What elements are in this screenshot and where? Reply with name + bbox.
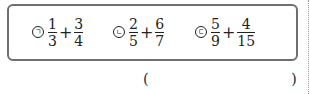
denominator: 15 — [237, 33, 255, 48]
option-c: ㄷ 5 9 + 4 15 — [195, 15, 256, 49]
option-a: ㄱ 1 3 + 3 4 — [32, 15, 84, 49]
fraction: 1 3 — [47, 17, 58, 48]
denominator: 3 — [48, 33, 57, 48]
numerator: 4 — [242, 17, 251, 32]
circled-marker-icon: ㄴ — [113, 26, 125, 38]
option-b: ㄴ 2 5 + 6 7 — [113, 15, 165, 49]
fraction: 4 15 — [236, 17, 256, 48]
denominator: 7 — [155, 33, 164, 48]
plus-sign: + — [140, 23, 153, 42]
plus-sign: + — [59, 23, 72, 42]
plus-sign: + — [222, 23, 235, 42]
numerator: 2 — [129, 17, 138, 32]
circled-marker-icon: ㄷ — [195, 26, 207, 38]
circled-marker-icon: ㄱ — [32, 26, 44, 38]
numerator: 6 — [155, 17, 164, 32]
fraction: 6 7 — [154, 17, 165, 48]
answer-open-paren: ( — [143, 70, 149, 88]
denominator: 4 — [74, 33, 83, 48]
fraction: 3 4 — [73, 17, 84, 48]
fraction: 5 9 — [210, 17, 221, 48]
numerator: 1 — [48, 17, 57, 32]
denominator: 9 — [211, 33, 220, 48]
numerator: 3 — [74, 17, 83, 32]
dotted-divider — [308, 0, 309, 94]
answer-close-paren: ) — [291, 70, 297, 88]
denominator: 5 — [129, 33, 138, 48]
fraction: 2 5 — [128, 17, 139, 48]
numerator: 5 — [211, 17, 220, 32]
